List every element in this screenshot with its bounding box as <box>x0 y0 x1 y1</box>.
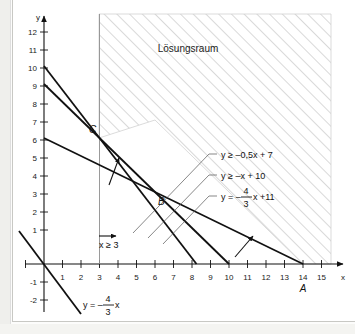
svg-text:9: 9 <box>33 82 38 91</box>
svg-text:12: 12 <box>262 273 271 282</box>
svg-text:7: 7 <box>171 273 176 282</box>
svg-text:1: 1 <box>60 273 65 282</box>
x-axis-label: x <box>341 273 345 282</box>
svg-text:5: 5 <box>134 273 139 282</box>
svg-text:4: 4 <box>33 172 38 181</box>
svg-text:x +11: x +11 <box>253 192 275 202</box>
svg-text:8: 8 <box>190 273 195 282</box>
vertex-label-a: A <box>299 283 307 294</box>
svg-text:3: 3 <box>97 273 102 282</box>
page-bottom-margin <box>0 324 355 334</box>
svg-text:13: 13 <box>280 273 289 282</box>
svg-text:10: 10 <box>28 64 37 73</box>
region-label: Lösungsraum <box>158 43 219 54</box>
svg-text:2: 2 <box>33 208 38 217</box>
line-y-four-thirds-0 <box>19 231 81 314</box>
svg-text:y = –: y = – <box>221 192 241 202</box>
svg-text:3: 3 <box>105 307 110 317</box>
svg-text:4: 4 <box>105 294 110 304</box>
equation-label-4: y = – 4 3 x <box>83 294 120 317</box>
svg-text:6: 6 <box>153 273 158 282</box>
svg-text:9: 9 <box>208 273 213 282</box>
svg-text:1: 1 <box>33 226 38 235</box>
svg-text:15: 15 <box>317 273 326 282</box>
svg-text:11: 11 <box>29 46 38 55</box>
svg-text:-1: -1 <box>30 278 38 287</box>
svg-text:x: x <box>115 300 120 310</box>
svg-text:11: 11 <box>243 273 252 282</box>
svg-text:3: 3 <box>33 190 38 199</box>
svg-text:12: 12 <box>28 28 37 37</box>
svg-text:-2: -2 <box>30 296 38 305</box>
svg-text:4: 4 <box>116 273 121 282</box>
y-axis-label: y <box>36 13 40 22</box>
svg-text:2: 2 <box>79 273 84 282</box>
svg-text:7: 7 <box>33 118 38 127</box>
plot-plate: 1 2 3 4 5 6 7 8 9 10 11 12 13 14 15 12 1… <box>12 0 355 322</box>
equation-label-1: y ≥ –0,5x + 7 <box>221 150 273 160</box>
x-tick-labels: 1 2 3 4 5 6 7 8 9 10 11 12 13 14 15 <box>60 273 326 282</box>
svg-text:10: 10 <box>225 273 234 282</box>
svg-text:14: 14 <box>299 273 308 282</box>
constraint-label-x3: x ≥ 3 <box>99 240 118 250</box>
svg-text:4: 4 <box>243 186 248 196</box>
vertex-label-b: B <box>158 196 165 207</box>
linear-programming-plot: 1 2 3 4 5 6 7 8 9 10 11 12 13 14 15 12 1… <box>13 0 355 322</box>
page-left-margin <box>0 0 11 334</box>
svg-text:5: 5 <box>33 154 38 163</box>
svg-text:6: 6 <box>33 136 38 145</box>
figure-frame: 1 2 3 4 5 6 7 8 9 10 11 12 13 14 15 12 1… <box>0 0 355 334</box>
svg-text:3: 3 <box>243 199 248 209</box>
equation-label-2: y ≥ –x + 10 <box>221 171 265 181</box>
svg-text:y = –: y = – <box>83 300 103 310</box>
svg-text:8: 8 <box>33 100 38 109</box>
vertex-label-c: C <box>89 124 97 135</box>
